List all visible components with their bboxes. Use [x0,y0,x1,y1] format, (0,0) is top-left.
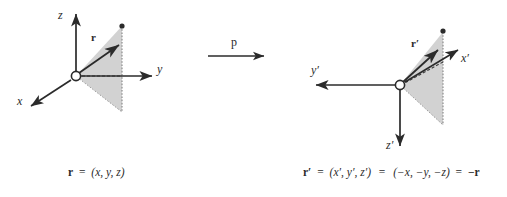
right-caption-result: −r [468,166,480,178]
right-caption: r′ = (x′, y′, z′) = (−x, −y, −z) = −r [303,167,480,179]
r-prime-vector-endpoint-dot [440,28,445,33]
left-caption-equals: = [79,166,86,178]
origin-marker [71,71,80,80]
parity-transformation-figure: z y x r p z′ y′ x′ r′ r = (x, y, z) r′ =… [0,0,507,197]
x-axis-line [31,80,71,106]
right-caption-equals-2: = [379,166,386,178]
right-panel-graphics [316,28,458,146]
r-vector-label: r [91,32,96,43]
z-prime-axis-label: z′ [386,139,393,151]
r-prime-vector-label: r′ [411,38,419,49]
left-caption: r = (x, y, z) [68,167,125,179]
origin-marker [395,80,404,89]
y-prime-axis-label: y′ [311,64,319,76]
parity-operator-label: p [231,36,237,48]
right-caption-equals-3: = [456,166,463,178]
z-axis-label: z [58,9,63,21]
right-caption-vector: r′ [303,166,311,178]
r-vector-endpoint-dot [119,23,124,28]
left-caption-vector: r [68,166,73,178]
right-caption-components-negated: (−x, −y, −z) [393,166,450,178]
y-axis-label: y [157,63,162,75]
projection-triangle-fill [76,26,122,112]
right-caption-components-primed: (x′, y′, z′) [330,166,371,178]
x-axis-label: x [17,95,22,107]
left-caption-components: (x, y, z) [91,166,124,178]
right-caption-equals-1: = [317,166,324,178]
x-prime-axis-label: x′ [461,52,469,64]
left-panel-graphics [31,14,152,112]
